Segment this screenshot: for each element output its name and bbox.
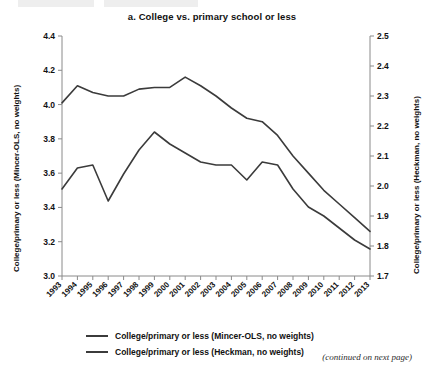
x-axis-tick-label: 1996 bbox=[91, 280, 110, 299]
legend-label: College/primary or less (Heckman, no wei… bbox=[115, 347, 304, 357]
y-axis-right-tick-label: 1.7 bbox=[377, 271, 389, 281]
y-axis-right-label: College/primary or less (Heckman, no wei… bbox=[412, 96, 421, 274]
y-axis-left-tick-label: 3.6 bbox=[43, 168, 55, 178]
x-axis-tick-label: 2006 bbox=[245, 280, 264, 299]
y-axis-left-label: College/primary or less (Mincer-OLS, no … bbox=[12, 85, 21, 272]
y-axis-left-tick-label: 3.4 bbox=[43, 202, 55, 212]
y-axis-right-tick-label: 2.1 bbox=[377, 151, 389, 161]
x-axis-tick-label: 2007 bbox=[260, 280, 279, 299]
continued-footnote: (continued on next page) bbox=[322, 352, 412, 362]
y-axis-left-tick-label: 3.8 bbox=[43, 134, 55, 144]
x-axis-tick-label: 2011 bbox=[322, 280, 341, 299]
legend-item-mincer-ols: College/primary or less (Mincer-OLS, no … bbox=[0, 328, 424, 344]
x-axis-tick-label: 2004 bbox=[214, 280, 233, 299]
x-axis-tick-label: 2012 bbox=[337, 280, 356, 299]
x-axis-tick-label: 1998 bbox=[121, 280, 140, 299]
chart-plot-area: 4.44.24.03.83.63.43.23.02.52.42.32.22.12… bbox=[0, 0, 424, 374]
y-axis-right-tick-label: 1.9 bbox=[377, 211, 389, 221]
x-axis-tick-label: 2000 bbox=[152, 280, 171, 299]
legend-swatch-icon bbox=[86, 335, 108, 337]
x-axis-tick-label: 2010 bbox=[306, 280, 325, 299]
x-axis-tick-label: 2002 bbox=[183, 280, 202, 299]
legend-swatch-icon bbox=[86, 351, 108, 353]
y-axis-right-tick-label: 2.5 bbox=[377, 31, 389, 41]
y-axis-right-tick-label: 2.0 bbox=[377, 181, 389, 191]
x-axis-tick-label: 2009 bbox=[291, 280, 310, 299]
y-axis-right-tick-label: 1.8 bbox=[377, 241, 389, 251]
y-axis-right-tick-label: 2.3 bbox=[377, 91, 389, 101]
x-axis-tick-label: 2001 bbox=[168, 280, 187, 299]
y-axis-left-tick-label: 4.0 bbox=[43, 100, 55, 110]
x-axis-tick-label: 1999 bbox=[137, 280, 156, 299]
y-axis-left-tick-label: 3.2 bbox=[43, 237, 55, 247]
x-axis-tick-label: 1993 bbox=[44, 280, 63, 299]
y-axis-right-tick-label: 2.2 bbox=[377, 121, 389, 131]
y-axis-left-tick-label: 4.2 bbox=[43, 65, 55, 75]
x-axis-tick-label: 2003 bbox=[198, 280, 217, 299]
y-axis-left-tick-label: 4.4 bbox=[43, 31, 55, 41]
x-axis-tick-label: 2005 bbox=[229, 280, 248, 299]
legend-label: College/primary or less (Mincer-OLS, no … bbox=[115, 331, 314, 341]
y-axis-left-tick-label: 3.0 bbox=[43, 271, 55, 281]
x-axis-tick-label: 1997 bbox=[106, 280, 125, 299]
y-axis-right-tick-label: 2.4 bbox=[377, 61, 389, 71]
x-axis-tick-label: 2008 bbox=[275, 280, 294, 299]
x-axis-tick-label: 1994 bbox=[60, 280, 79, 299]
figure-panel: a. College vs. primary school or less 4.… bbox=[0, 0, 424, 374]
x-axis-tick-label: 1995 bbox=[75, 280, 94, 299]
series-line-mincer-ols bbox=[62, 77, 370, 231]
x-axis-tick-label: 2013 bbox=[352, 280, 371, 299]
